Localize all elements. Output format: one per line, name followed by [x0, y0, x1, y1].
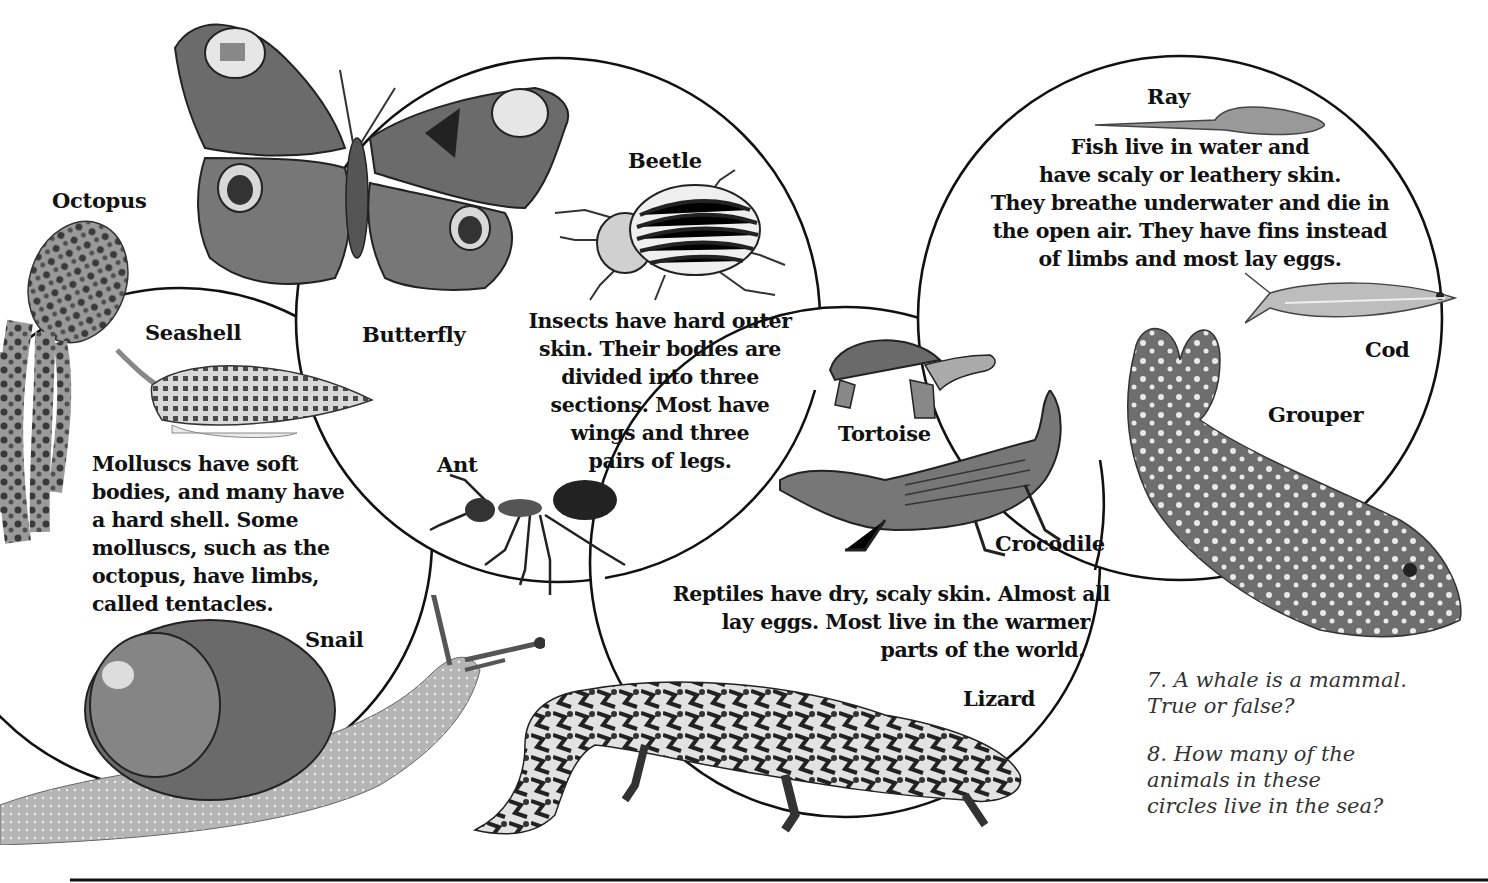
molluscs-description: Molluscs have soft bodies, and many have… [92, 450, 344, 618]
label-lizard: Lizard [963, 686, 1035, 711]
reptiles-description: Reptiles have dry, scaly skin. Almost al… [615, 580, 1110, 664]
fish-description: Fish live in water and have scaly or lea… [965, 133, 1415, 273]
question-7: 7. A whale is a mammal. True or false? [1147, 667, 1407, 719]
label-grouper: Grouper [1268, 402, 1363, 427]
seashell-illustration [112, 345, 377, 445]
label-crocodile: Crocodile [995, 531, 1105, 556]
label-ant: Ant [437, 452, 477, 477]
ant-illustration [425, 470, 635, 600]
butterfly-illustration [165, 8, 585, 293]
animal-classification-page: Octopus Seashell Snail Butterfly Beetle … [0, 0, 1488, 883]
label-seashell: Seashell [145, 320, 241, 345]
label-octopus: Octopus [52, 188, 146, 213]
label-beetle: Beetle [628, 148, 702, 173]
label-butterfly: Butterfly [362, 322, 465, 347]
question-8: 8. How many of the animals in these circ… [1147, 741, 1383, 819]
label-ray: Ray [1147, 84, 1190, 109]
insects-description: Insects have hard outer skin. Their bodi… [515, 307, 805, 475]
grouper-illustration [1120, 320, 1470, 660]
snail-illustration [0, 595, 545, 845]
label-snail: Snail [305, 627, 364, 652]
lizard-illustration [465, 665, 1045, 845]
label-tortoise: Tortoise [838, 421, 931, 446]
label-cod: Cod [1365, 337, 1410, 362]
beetle-illustration [545, 165, 795, 305]
